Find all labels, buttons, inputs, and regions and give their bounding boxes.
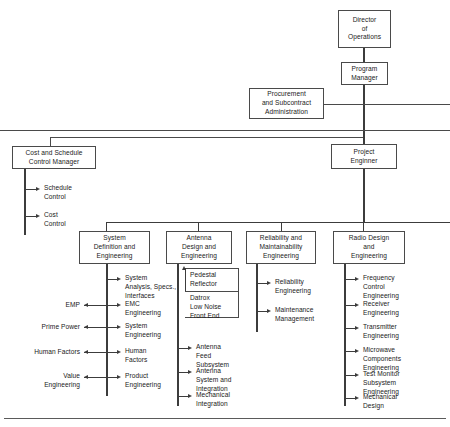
- connector-bus-to-reliability: [281, 222, 282, 231]
- node-label: Antenna Design and Engineering: [181, 234, 217, 260]
- node-label: Procurement and Subcontract Administrati…: [262, 90, 311, 116]
- antenna-subgroup-divider: [185, 291, 238, 292]
- leaf-mechanical-integration[interactable]: Mechanical Integration: [196, 391, 254, 409]
- arrowhead-microwave-components-icon: [355, 349, 359, 353]
- connector-procurement-to-trunk: [324, 104, 450, 105]
- leaf-emc-engineering[interactable]: EMC Engineering: [125, 300, 187, 318]
- connector-cost-elbow-vertical: [50, 137, 51, 146]
- leaf-maintenance-management[interactable]: Maintenance Management: [275, 306, 333, 324]
- arrowhead-product-engineering-icon: [117, 375, 121, 379]
- leaf-product-engineering[interactable]: Product Engineering: [125, 372, 187, 390]
- leaf-antenna-feed-subsystem[interactable]: Antenna Feed Subsystem: [196, 343, 254, 369]
- connector-project-engineer-to-bus: [363, 169, 365, 222]
- connector-cost-elbow-horizontal: [50, 137, 363, 138]
- leaf-emp[interactable]: EMP: [18, 301, 80, 310]
- leaf-reliability-engineering[interactable]: Reliability Engineering: [275, 278, 333, 296]
- node-label: System Definition and Engineering: [94, 234, 135, 260]
- node-reliability-and-maintainability-engineering[interactable]: Reliability and Maintainability Engineer…: [246, 231, 316, 264]
- leaf-value-engineering[interactable]: Value Engineering: [16, 372, 80, 390]
- arrowhead-test-monitor-subsystem-icon: [355, 373, 359, 377]
- node-label: Director of Operations: [348, 16, 381, 42]
- node-label: Cost and Schedule Control Manager: [25, 149, 82, 166]
- node-label: Reliability and Maintainability Engineer…: [260, 234, 303, 260]
- arrowhead-value-engineering-icon: [84, 375, 88, 379]
- connector-director-to-program-manager: [363, 48, 365, 62]
- node-label: Project Enginner: [350, 148, 377, 165]
- arrowhead-cost-control-icon: [36, 214, 40, 218]
- leaf-datrox-low-noise-front-end[interactable]: Datrox Low Noise Front End: [190, 294, 240, 320]
- arrowhead-receiver-engineering-icon: [355, 303, 359, 307]
- connector-bus-to-radio-design: [363, 222, 364, 231]
- connector-staff-bus: [0, 130, 450, 131]
- connector-bus-to-system-definition: [106, 222, 107, 231]
- arrowhead-emc-engineering-icon: [117, 303, 121, 307]
- connector-department-bus: [106, 222, 450, 223]
- arrowhead-pedestal-reflector-icon: [182, 266, 186, 270]
- leaf-schedule-control[interactable]: Schedule Control: [44, 184, 102, 202]
- leaf-antenna-system-and-integration[interactable]: Antenna System and Integration: [196, 367, 254, 393]
- node-project-engineer[interactable]: Project Enginner: [331, 144, 397, 169]
- arrowhead-frequency-control-icon: [355, 277, 359, 281]
- node-system-definition-and-engineering[interactable]: System Definition and Engineering: [79, 231, 150, 264]
- leaf-system-analysis-specs-interfaces[interactable]: System Analysis, Specs., Interfaces: [125, 274, 187, 300]
- leaf-microwave-components-engineering[interactable]: Microwave Components Engineering: [363, 346, 425, 372]
- node-procurement-and-subcontract-administration[interactable]: Procurement and Subcontract Administrati…: [249, 88, 324, 119]
- connector-bus-to-antenna-design: [198, 222, 199, 231]
- leaf-human-factors-input[interactable]: Human Factors: [8, 348, 80, 357]
- leaf-cost-control[interactable]: Cost Control: [44, 211, 102, 229]
- arrowhead-antenna-feed-subsystem-icon: [188, 346, 192, 350]
- org-chart: Director of Operations Program Manager P…: [0, 0, 450, 427]
- arrowhead-system-analysis-icon: [117, 277, 121, 281]
- node-program-manager[interactable]: Program Manager: [341, 62, 388, 85]
- page-baseline-rule: [4, 418, 446, 419]
- leaf-system-engineering[interactable]: System Engineering: [125, 322, 187, 340]
- arrowhead-prime-power-icon: [84, 325, 88, 329]
- arrowhead-mechanical-integration-icon: [188, 394, 192, 398]
- node-cost-and-schedule-control-manager[interactable]: Cost and Schedule Control Manager: [12, 146, 96, 169]
- node-label: Program Manager: [351, 65, 378, 82]
- arrowhead-human-factors-icon: [117, 350, 121, 354]
- node-label: Radio Design and Engineering: [349, 234, 390, 260]
- leaf-frequency-control-engineering[interactable]: Frequency Control Engineering: [363, 274, 425, 300]
- leaf-pedestal-reflector[interactable]: Pedestal Reflector: [190, 271, 240, 289]
- arrowhead-system-engineering-icon: [117, 325, 121, 329]
- node-antenna-design-and-engineering[interactable]: Antenna Design and Engineering: [166, 231, 232, 264]
- node-director-of-operations[interactable]: Director of Operations: [338, 10, 391, 48]
- arrowhead-antenna-system-integration-icon: [188, 370, 192, 374]
- arrowhead-human-factors-input-icon: [84, 350, 88, 354]
- arrowhead-schedule-control-icon: [36, 187, 40, 191]
- arrowhead-reliability-engineering-icon: [267, 281, 271, 285]
- leaf-human-factors[interactable]: Human Factors: [125, 347, 187, 365]
- spine-radio-design: [344, 264, 346, 406]
- leaf-mechanical-design[interactable]: Mechanical Design: [363, 393, 425, 411]
- leaf-prime-power[interactable]: Prime Power: [12, 323, 80, 332]
- leaf-receiver-engineering[interactable]: Receiver Engineering: [363, 300, 425, 318]
- arrowhead-maintenance-management-icon: [267, 309, 271, 313]
- leaf-transmitter-engineering[interactable]: Transmitter Engineering: [363, 323, 425, 341]
- arrowhead-mechanical-design-icon: [355, 396, 359, 400]
- spine-reliability: [256, 264, 258, 332]
- node-radio-design-and-engineering[interactable]: Radio Design and Engineering: [333, 231, 405, 264]
- arrowhead-emp-icon: [84, 303, 88, 307]
- connector-program-manager-trunk: [363, 85, 365, 148]
- spine-cost-schedule: [24, 169, 26, 235]
- arrowhead-transmitter-engineering-icon: [355, 326, 359, 330]
